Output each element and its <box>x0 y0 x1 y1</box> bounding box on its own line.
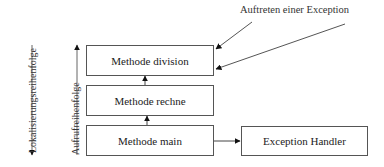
method-main-box: Methode main <box>86 125 214 156</box>
method-rechne-box: Methode rechne <box>86 85 214 116</box>
exception-pointer-2 <box>216 24 345 69</box>
method-rechne-label: Methode rechne <box>114 95 185 107</box>
exception-pointer-1 <box>216 22 252 49</box>
exception-stack-diagram: Lokalisierungsreihenfolge Aufrufreihenfo… <box>0 0 384 167</box>
method-division-box: Methode division <box>86 45 214 76</box>
call-order-label: Aufrufreihenfolge <box>70 82 81 155</box>
exception-occurrence-label: Auftreten einer Exception <box>240 4 349 15</box>
method-main-label: Methode main <box>118 135 182 147</box>
localization-order-label: Lokalisierungsreihenfolge <box>27 48 38 153</box>
exception-handler-box: Exception Handler <box>241 126 368 156</box>
exception-handler-label: Exception Handler <box>263 135 346 147</box>
method-division-label: Methode division <box>111 55 188 67</box>
